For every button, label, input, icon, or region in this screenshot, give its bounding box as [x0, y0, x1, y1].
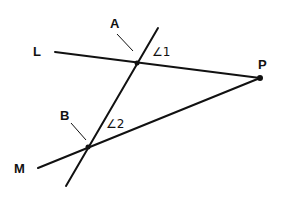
- label-a: A: [110, 16, 120, 31]
- pointer-b: [71, 123, 86, 140]
- label-b: B: [60, 108, 69, 123]
- diagram-svg: L A ∠1 P B ∠2 M: [0, 0, 282, 202]
- point-p-dot: [257, 75, 263, 81]
- pointer-a: [117, 34, 133, 51]
- transversal-line: [66, 28, 158, 186]
- label-l: L: [33, 44, 41, 59]
- geometry-diagram: L A ∠1 P B ∠2 M: [0, 0, 282, 202]
- label-angle-1: ∠1: [152, 45, 170, 59]
- point-b-dot: [86, 145, 91, 150]
- label-m: M: [14, 161, 25, 176]
- point-a-dot: [135, 61, 140, 66]
- label-p: P: [258, 57, 267, 72]
- label-angle-2: ∠2: [106, 117, 124, 131]
